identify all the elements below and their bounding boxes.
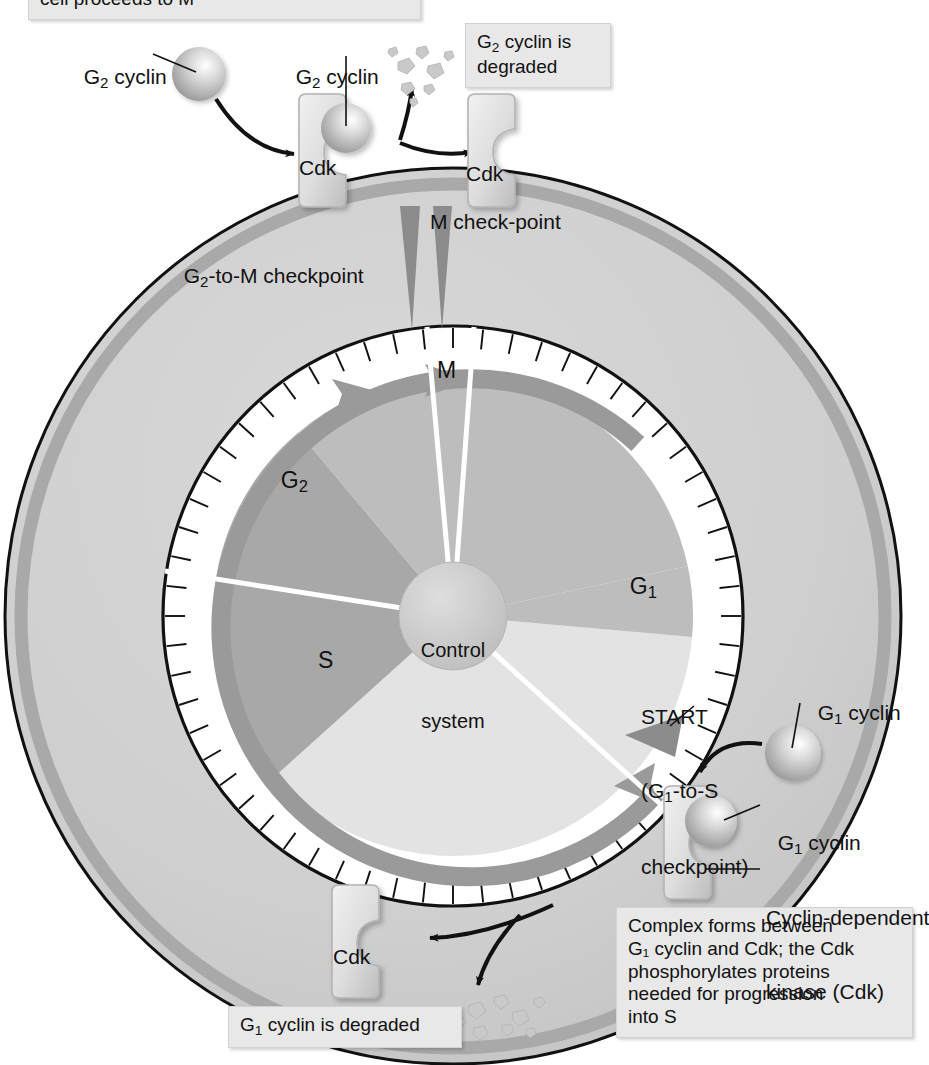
callout-g2-cyclin-degraded: G2 cyclin is degraded [465, 23, 611, 88]
label-g1-cyclin-free: G1 cyclin [806, 676, 901, 728]
callout-g2-degraded-l2: degraded [477, 56, 557, 77]
g1-cyclin-free-sphere [765, 725, 821, 781]
label-cdk-top-left: Cdk [299, 156, 336, 181]
label-phase-m: M [437, 357, 456, 384]
callout-g1-cyclin-degraded: G1 cyclin is degraded [228, 1006, 462, 1048]
callout-g1-degraded-l1: G1 cyclin is degraded [240, 1014, 420, 1035]
g2-degradation-arrows [400, 88, 472, 154]
g2-cyclin-free-group [153, 47, 294, 154]
label-g2-cyclin-bound: G2 cyclin [284, 40, 379, 92]
label-control-system-l2: system [411, 710, 495, 734]
label-phase-g1: G1 [617, 546, 657, 603]
label-start-line1: START [641, 705, 748, 730]
label-phase-g2: G2 [268, 440, 308, 497]
label-g2-cyclin-free: G2 cyclin [72, 40, 167, 92]
label-start-line3: checkpoint) [641, 855, 748, 880]
label-control-system: Control system [411, 592, 495, 757]
label-m-checkpoint: M check-point [430, 210, 561, 235]
label-cdk-bottom: Cdk [333, 945, 370, 970]
g2-cyclin-debris [388, 46, 454, 107]
g2-cyclin-binding-arrow [216, 99, 294, 154]
label-cdk-kinase-l2: kinase (Cdk) [766, 980, 929, 1005]
label-cdk-top-right: Cdk [466, 162, 503, 187]
label-cyclin-dependent-kinase: Cyclin-dependent kinase (Cdk) [766, 856, 929, 1029]
label-cdk-kinase-l1: Cyclin-dependent [766, 906, 929, 931]
callout-cell-proceeds-to-m: cell proceeds to M [28, 0, 421, 20]
callout-cell-proceeds-text: cell proceeds to M [40, 0, 194, 9]
label-start-line2: (G1-to-S [641, 779, 748, 806]
label-control-system-l1: Control [411, 639, 495, 663]
g2-cyclin-free-sphere [172, 47, 226, 101]
label-g2-to-m-checkpoint: G2-to-M checkpoint [172, 239, 364, 291]
cdk-top-right-shape [468, 94, 515, 207]
callout-g2-degraded-l1: G2 cyclin is [477, 31, 571, 52]
label-start-checkpoint: START (G1-to-S checkpoint) [641, 655, 748, 905]
label-phase-s: S [318, 647, 333, 674]
label-g1-cyclin-bound: G1 cyclin [766, 806, 861, 858]
